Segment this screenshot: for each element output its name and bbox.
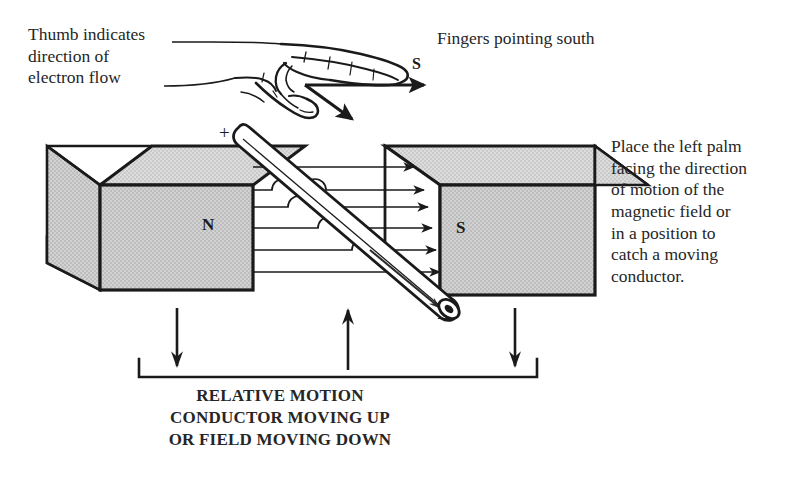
palm-annotation: Place the left palm facing the direction… xyxy=(611,136,747,288)
fingers-annotation: Fingers pointing south xyxy=(437,28,595,50)
relative-motion-arrows xyxy=(177,308,515,370)
caption-line-1: RELATIVE MOTION xyxy=(196,386,364,405)
positive-terminal-label: + xyxy=(219,122,230,144)
magnet-n-left-face xyxy=(47,146,100,290)
thumb-annotation: Thumb indicates direction of electron fl… xyxy=(28,24,145,89)
figure-canvas: Thumb indicates direction of electron fl… xyxy=(0,0,800,480)
magnet-s-front-face xyxy=(440,185,595,295)
left-hand-illustration xyxy=(235,44,408,118)
negative-terminal-label: – xyxy=(438,306,448,328)
figure-caption: RELATIVE MOTIONCONDUCTOR MOVING UPOR FIE… xyxy=(0,385,560,451)
fingers-south-label: S xyxy=(412,55,421,73)
magnet-n-pole-label: N xyxy=(202,215,214,235)
span-bracket xyxy=(139,359,537,377)
caption-line-2: CONDUCTOR MOVING UP xyxy=(170,408,390,427)
magnet-n-front-face xyxy=(100,185,253,290)
hand-direction-arrows xyxy=(305,85,424,119)
caption-line-3: OR FIELD MOVING DOWN xyxy=(169,430,392,449)
magnet-s-pole-label: S xyxy=(456,218,465,238)
